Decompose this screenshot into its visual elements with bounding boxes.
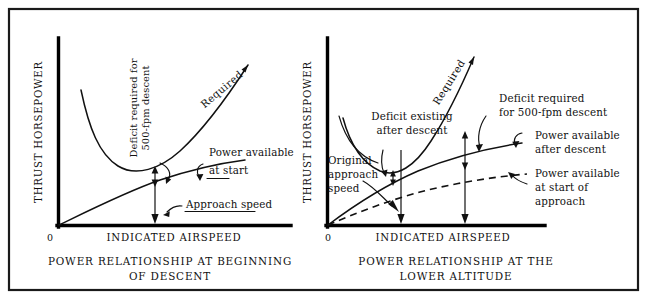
panel-left: THRUST HORSEPOWER 0 INDICATED AIRSPEED R… bbox=[33, 38, 294, 282]
right-deficit-required-axis-arrow bbox=[461, 214, 468, 224]
right-deficit-required-label-line2: for 500-fpm descent bbox=[499, 106, 608, 118]
right-caption-line1: POWER RELATIONSHIP AT THE bbox=[358, 255, 553, 267]
right-power-available-start-leader bbox=[512, 175, 527, 184]
right-original-approach-speed-leader bbox=[363, 181, 392, 206]
power-relationship-figure: THRUST HORSEPOWER 0 INDICATED AIRSPEED R… bbox=[0, 0, 651, 304]
right-deficit-required-arrow-up bbox=[462, 131, 468, 138]
figure-root: THRUST HORSEPOWER 0 INDICATED AIRSPEED R… bbox=[0, 0, 651, 304]
right-deficit-existing-leader-arrow bbox=[381, 170, 387, 178]
left-deficit-arrow-up bbox=[152, 166, 159, 173]
right-y-axis-label: THRUST HORSEPOWER bbox=[302, 61, 313, 203]
left-approach-speed-label: Approach speed bbox=[185, 198, 273, 210]
left-approach-speed-arrow bbox=[151, 214, 158, 224]
left-caption-line2: OF DESCENT bbox=[129, 270, 211, 282]
right-power-available-start-label-line2: at start of bbox=[535, 181, 589, 193]
left-deficit-label-line1: Deficit required for bbox=[128, 58, 139, 157]
left-caption-line1: POWER RELATIONSHIP AT BEGINNING bbox=[48, 255, 292, 267]
right-x-axis-label: INDICATED AIRSPEED bbox=[376, 232, 511, 243]
right-original-approach-speed-arrow bbox=[397, 214, 404, 224]
right-deficit-existing-label-line2: after descent bbox=[377, 124, 449, 136]
right-original-approach-speed-label-line1: Original bbox=[328, 154, 372, 166]
right-deficit-required-leader bbox=[479, 116, 486, 147]
left-deficit-label-line2: 500-fpm descent bbox=[140, 65, 151, 150]
left-approach-speed-leader bbox=[167, 206, 182, 212]
right-power-available-start-label-line3: approach bbox=[535, 195, 585, 207]
left-power-available-label-line1: Power available bbox=[209, 146, 294, 158]
right-power-available-after-label-line1: Power available bbox=[535, 129, 620, 141]
right-original-approach-speed-label-line2: approach bbox=[328, 168, 378, 180]
left-approach-speed-leader-arrow bbox=[163, 211, 170, 217]
right-deficit-required-label-line1: Deficit required bbox=[499, 92, 585, 104]
right-power-available-after-label-line2: after descent bbox=[535, 143, 607, 155]
left-y-axis-label: THRUST HORSEPOWER bbox=[33, 61, 44, 203]
left-origin-label: 0 bbox=[47, 232, 53, 243]
right-deficit-existing-label-line1: Deficit existing bbox=[371, 110, 453, 122]
left-required-curve-tip bbox=[242, 65, 249, 73]
right-caption-line2: LOWER ALTITUDE bbox=[400, 270, 513, 282]
left-power-available-label-line2: at start bbox=[209, 164, 249, 176]
right-origin-label: 0 bbox=[325, 232, 331, 243]
right-deficit-existing-leader bbox=[382, 150, 384, 173]
right-required-label: Required bbox=[430, 57, 467, 107]
left-x-axis-label: INDICATED AIRSPEED bbox=[107, 232, 242, 243]
left-power-available-leader-arrow bbox=[196, 174, 203, 181]
right-original-approach-speed-label-line3: speed bbox=[328, 182, 360, 194]
panel-right: THRUST HORSEPOWER 0 INDICATED AIRSPEED R… bbox=[302, 38, 620, 282]
right-power-available-start-label-line1: Power available bbox=[535, 167, 620, 179]
right-required-curve-tip bbox=[469, 57, 475, 65]
